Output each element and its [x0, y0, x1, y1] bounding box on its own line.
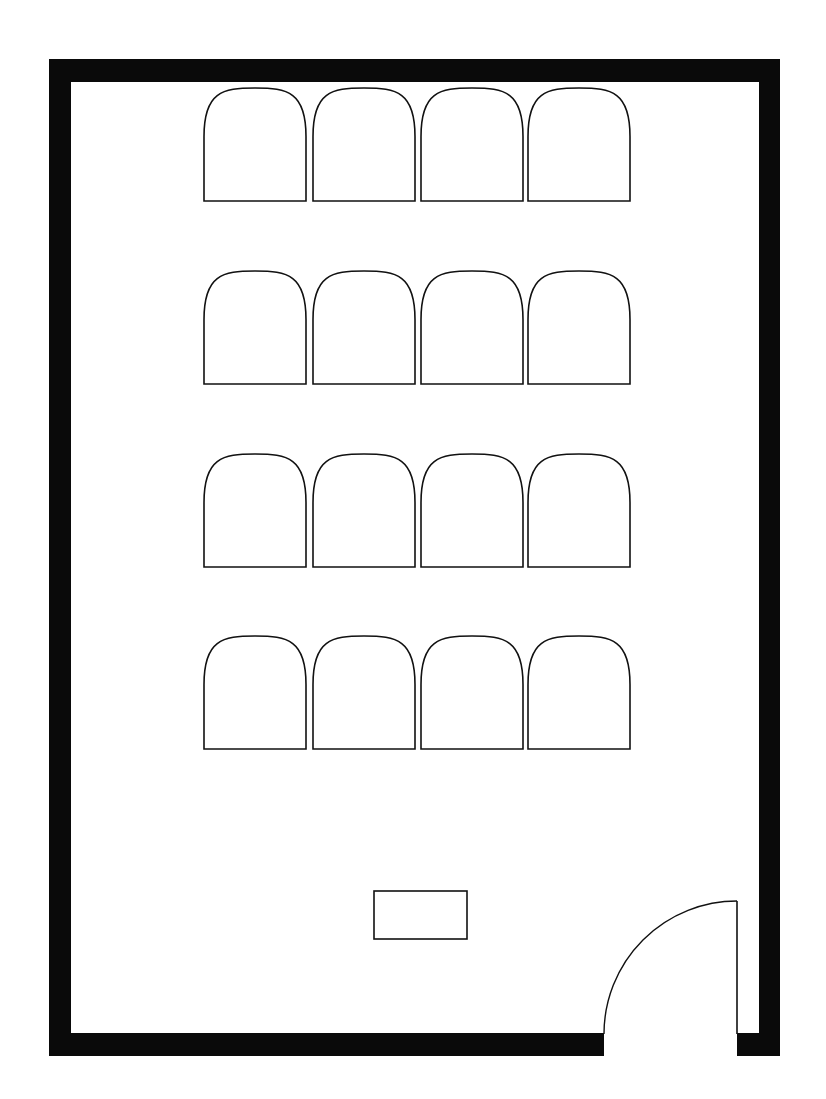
door-swing-arc: [604, 901, 737, 1034]
chair: Chair: [528, 636, 630, 749]
chair: Chair: [313, 271, 415, 384]
chair-outline: Chair: [528, 636, 630, 749]
chair: Chair: [313, 636, 415, 749]
chair: Chair: [421, 88, 523, 201]
chair: Chair: [528, 88, 630, 201]
chair-outline: Chair: [204, 636, 306, 749]
wall-right: [759, 59, 780, 1056]
chair: Chair: [204, 636, 306, 749]
chair: Chair: [204, 88, 306, 201]
chair: Chair: [421, 636, 523, 749]
chair-outline: Chair: [204, 271, 306, 384]
wall-bottom-left: [49, 1033, 604, 1056]
chair-outline: Chair: [313, 88, 415, 201]
seating-area: ChairChairChairChairChairChairChairChair…: [204, 88, 630, 749]
chair: Chair: [313, 454, 415, 567]
chair-outline: Chair: [528, 454, 630, 567]
chair: Chair: [421, 454, 523, 567]
chair-outline: Chair: [421, 636, 523, 749]
chair: Chair: [421, 271, 523, 384]
chair-outline: Chair: [421, 271, 523, 384]
chair-outline: Chair: [204, 88, 306, 201]
wall-top: [49, 59, 780, 82]
chair: Chair: [313, 88, 415, 201]
chair-outline: Chair: [528, 271, 630, 384]
chair: Chair: [204, 271, 306, 384]
door[interactable]: [604, 901, 737, 1034]
chair-outline: Chair: [421, 454, 523, 567]
chair: Chair: [528, 454, 630, 567]
wall-bottom-right: [737, 1033, 780, 1056]
chair-outline: Chair: [313, 271, 415, 384]
chair: Chair: [528, 271, 630, 384]
chair-outline: Chair: [528, 88, 630, 201]
chair-outline: Chair: [204, 454, 306, 567]
desk: [374, 891, 467, 939]
chair-outline: Chair: [421, 88, 523, 201]
chair-outline: Chair: [313, 454, 415, 567]
chair-outline: Chair: [313, 636, 415, 749]
floor-plan: ChairChairChairChairChairChairChairChair…: [0, 0, 826, 1099]
chair: Chair: [204, 454, 306, 567]
wall-left: [49, 59, 71, 1056]
